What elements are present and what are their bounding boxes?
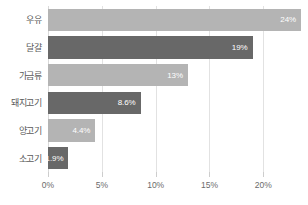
x-tick-label: 10% (147, 180, 164, 190)
bar-value-label: 8.6% (118, 98, 141, 107)
bar: 8.6% (48, 92, 141, 114)
bar-row: 소고기1.9% (48, 147, 301, 169)
x-tick-mark (263, 172, 264, 177)
category-label: 우유 (26, 13, 42, 26)
category-label: 소고기 (19, 152, 42, 165)
bar-row: 양고기4.4% (48, 119, 301, 141)
bar: 24% (48, 9, 301, 31)
x-axis: 0%5%10%15%20% (48, 172, 301, 198)
category-label: 돼지고기 (11, 96, 42, 109)
bar-value-label: 24% (280, 15, 301, 24)
x-tick-mark (102, 172, 103, 177)
bar-row: 돼지고기8.6% (48, 92, 301, 114)
x-tick-mark (156, 172, 157, 177)
bar: 4.4% (48, 119, 95, 141)
bar-chart: 우유24%달걀19%가금류13%돼지고기8.6%양고기4.4%소고기1.9% 0… (0, 0, 308, 205)
bar: 1.9% (48, 147, 68, 169)
plot-area: 우유24%달걀19%가금류13%돼지고기8.6%양고기4.4%소고기1.9% (48, 6, 301, 172)
bar-row: 우유24% (48, 9, 301, 31)
bar: 13% (48, 64, 188, 86)
category-label: 달걀 (26, 41, 42, 54)
bar-value-label: 13% (167, 71, 188, 80)
x-tick-mark (48, 172, 49, 177)
x-tick-label: 20% (255, 180, 272, 190)
x-tick-label: 0% (42, 180, 54, 190)
bar-row: 달걀19% (48, 36, 301, 58)
bar: 19% (48, 36, 253, 58)
category-label: 양고기 (19, 124, 42, 137)
bar-value-label: 1.9% (46, 154, 69, 163)
bar-row: 가금류13% (48, 64, 301, 86)
category-label: 가금류 (19, 69, 42, 82)
x-tick-label: 5% (96, 180, 108, 190)
x-tick-label: 15% (201, 180, 218, 190)
bar-value-label: 19% (232, 43, 253, 52)
x-tick-mark (209, 172, 210, 177)
bar-value-label: 4.4% (73, 126, 96, 135)
